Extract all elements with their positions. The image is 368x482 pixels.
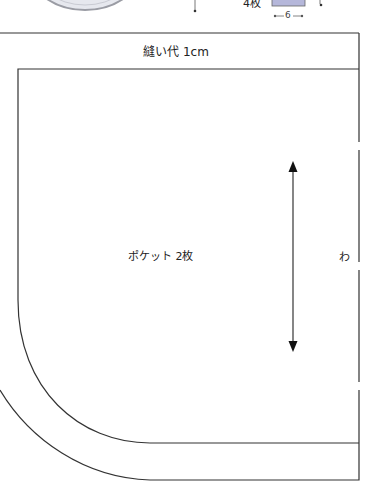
pattern-drawing <box>0 0 368 482</box>
piece-count-label: 4枚 <box>243 0 261 10</box>
small-rect-piece <box>272 0 305 6</box>
circle-piece-fragment <box>27 0 143 10</box>
dimension-label: 6 <box>272 10 278 20</box>
fold-label: わ <box>339 248 350 264</box>
seam-allowance-label: 縫い代 1cm <box>0 42 368 59</box>
piece-label: ポケット 2枚 <box>128 247 194 263</box>
grainline-arrow-icon <box>289 161 298 352</box>
